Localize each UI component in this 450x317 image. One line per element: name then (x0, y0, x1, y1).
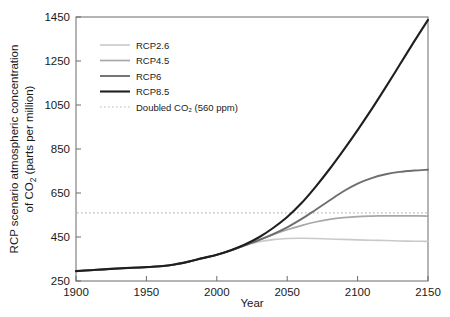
y-tick-label: 650 (51, 187, 70, 199)
y-tick-label: 850 (51, 143, 70, 155)
y-tick-label: 1450 (44, 11, 70, 23)
y-axis-title-co2-pre: of CO (23, 182, 35, 212)
y-axis-title-line1: RCP scenario atmospheric concentration (8, 45, 20, 254)
x-tick-label: 1950 (134, 286, 160, 298)
legend-item-rcp2-6-label: RCP2.6 (136, 40, 169, 51)
y-tick-label: 1050 (44, 99, 70, 111)
co2-concentration-chart: 250450650850105012501450 190019502000205… (0, 0, 450, 317)
y-tick-label: 450 (51, 231, 70, 243)
x-axis-title: Year (240, 297, 263, 309)
legend-item-doubled-co-560-ppm-label: Doubled CO₂ (560 ppm) (136, 102, 238, 113)
y-tick-label: 1250 (44, 55, 70, 67)
legend-item-rcp8-5-label: RCP8.5 (136, 86, 169, 97)
x-tick-label: 1900 (63, 286, 89, 298)
x-tick-label: 2100 (345, 286, 371, 298)
legend-item-rcp4-5-label: RCP4.5 (136, 55, 169, 66)
x-tick-label: 2000 (204, 286, 230, 298)
legend-item-rcp6-label: RCP6 (136, 71, 161, 82)
x-tick-label: 2050 (274, 286, 300, 298)
x-tick-label: 2150 (415, 286, 441, 298)
y-axis-title-co2-post: (parts per million) (23, 85, 35, 177)
chart-background (0, 0, 450, 317)
